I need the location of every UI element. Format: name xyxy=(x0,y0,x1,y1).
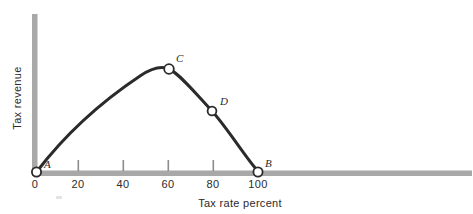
data-point-B xyxy=(253,167,262,176)
y-axis-line xyxy=(32,14,38,176)
x-axis-line xyxy=(32,171,472,177)
point-label-D: D xyxy=(220,95,228,107)
y-axis-title: Tax revenue xyxy=(11,53,23,143)
laffer-curve-path xyxy=(37,68,258,172)
point-label-A: A xyxy=(44,158,51,170)
x-tick-label-20: 20 xyxy=(58,178,98,190)
data-point-C xyxy=(164,64,174,74)
point-label-B: B xyxy=(265,157,272,169)
scan-artifact xyxy=(56,196,62,199)
data-point-A xyxy=(32,167,41,176)
x-tick-label-0: 0 xyxy=(15,178,55,190)
x-tick-label-80: 80 xyxy=(193,178,233,190)
data-point-D xyxy=(208,107,217,116)
x-axis-title: Tax rate percent xyxy=(165,197,315,209)
x-tick-label-100: 100 xyxy=(238,178,278,190)
point-label-C: C xyxy=(176,52,183,64)
x-tick-60 xyxy=(168,160,170,171)
x-tick-label-40: 40 xyxy=(103,178,143,190)
chart-figure: 0 20 40 60 80 100 A C D B Tax rate perce… xyxy=(0,0,473,214)
x-tick-20 xyxy=(78,160,80,171)
x-tick-80 xyxy=(213,160,215,171)
x-tick-40 xyxy=(123,160,125,171)
x-tick-label-60: 60 xyxy=(148,178,188,190)
